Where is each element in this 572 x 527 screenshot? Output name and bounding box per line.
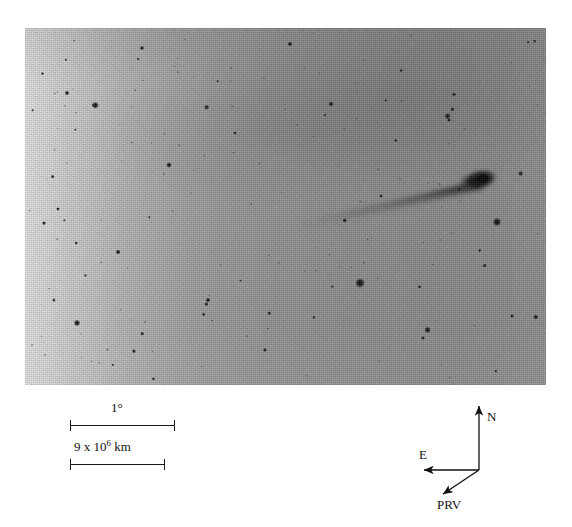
star-point	[44, 354, 47, 357]
compass-label-north: N	[487, 410, 496, 423]
star-point	[422, 242, 424, 244]
star-point	[370, 237, 372, 239]
star-point	[130, 106, 132, 108]
star-point	[115, 249, 120, 254]
star-point	[529, 85, 531, 87]
star-point	[127, 267, 129, 269]
star-point	[536, 104, 539, 107]
star-point	[166, 162, 172, 168]
scale-bar-linear	[70, 464, 165, 465]
tick-right-linear	[164, 459, 165, 470]
star-point	[331, 285, 334, 288]
star-point	[48, 288, 50, 290]
compass-arrow-prv	[443, 470, 479, 494]
star-point	[343, 128, 345, 130]
star-point	[281, 191, 283, 193]
star-point	[432, 84, 434, 86]
star-point	[354, 81, 356, 83]
star-point	[211, 319, 213, 321]
star-point	[203, 154, 206, 157]
star-point	[494, 370, 497, 373]
star-point	[245, 335, 248, 338]
star-point	[492, 217, 501, 226]
star-point	[394, 139, 398, 143]
star-point	[56, 207, 60, 211]
star-point	[216, 80, 219, 83]
star-point	[219, 264, 222, 267]
tick-left-linear	[70, 459, 71, 470]
star-point	[29, 210, 31, 212]
star-point	[140, 332, 144, 336]
star-point	[53, 149, 55, 151]
star-point	[74, 241, 78, 245]
star-point	[84, 274, 87, 277]
star-point	[177, 58, 179, 60]
star-point	[233, 152, 235, 154]
star-point	[330, 273, 332, 275]
star-point	[303, 67, 306, 70]
star-point	[424, 326, 431, 333]
star-point	[65, 91, 70, 96]
star-point	[303, 270, 305, 272]
star-point	[163, 133, 165, 135]
star-point	[190, 193, 192, 195]
star-point	[42, 221, 46, 225]
star-point	[350, 267, 352, 269]
star-point	[184, 223, 186, 225]
star-point	[151, 142, 153, 144]
star-point	[183, 38, 186, 41]
star-point	[137, 58, 140, 61]
star-point	[533, 314, 539, 320]
star-point	[440, 364, 442, 366]
star-point	[80, 356, 82, 358]
star-point	[312, 316, 315, 319]
star-point	[480, 81, 482, 83]
star-point	[101, 220, 103, 222]
star-point	[384, 99, 387, 102]
star-point	[478, 249, 481, 252]
star-point	[56, 238, 58, 240]
star-point	[263, 76, 265, 78]
star-point	[206, 298, 211, 303]
star-point	[473, 325, 475, 327]
star-point	[31, 109, 34, 112]
star-point	[229, 80, 231, 82]
star-point	[328, 101, 333, 106]
star-point	[447, 143, 449, 145]
star-point	[114, 198, 116, 200]
star-point	[268, 254, 270, 256]
star-point	[527, 41, 530, 44]
star-point	[204, 302, 208, 306]
star-point	[204, 104, 210, 110]
star-point	[193, 76, 195, 78]
star-field	[25, 28, 546, 385]
star-point	[173, 65, 175, 67]
star-point	[315, 270, 317, 272]
star-point	[378, 360, 381, 363]
star-point	[73, 39, 76, 42]
star-point	[151, 350, 154, 353]
star-point	[52, 298, 56, 302]
star-point	[140, 46, 144, 50]
star-point	[201, 365, 203, 367]
sky-photograph	[25, 28, 546, 385]
star-point	[432, 263, 435, 266]
star-point	[144, 321, 147, 324]
star-point	[410, 34, 412, 36]
star-point	[178, 144, 181, 147]
star-point	[250, 203, 253, 206]
star-point	[441, 206, 443, 208]
star-point	[64, 104, 67, 107]
star-point	[258, 162, 261, 165]
star-point	[418, 285, 422, 289]
star-point	[399, 69, 403, 73]
star-point	[40, 335, 42, 337]
scale-bar-linear-exponent: 6	[107, 438, 112, 448]
star-point	[56, 127, 58, 129]
star-point	[533, 39, 537, 43]
star-point	[377, 168, 380, 171]
star-point	[394, 271, 396, 273]
star-point	[31, 344, 34, 347]
star-point	[56, 91, 58, 93]
star-point	[74, 320, 81, 327]
